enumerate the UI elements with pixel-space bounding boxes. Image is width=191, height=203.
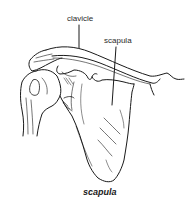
scapula-diagram: clavicle scapula scapula — [0, 0, 191, 203]
figure-caption: scapula — [83, 188, 117, 197]
scapula-line-drawing — [0, 0, 191, 203]
humerus-head — [21, 70, 61, 136]
coracoid-process — [57, 66, 97, 79]
clavicle-label: clavicle — [67, 15, 93, 23]
clavicle-bone — [46, 47, 184, 95]
scapula-leader-line — [112, 47, 116, 105]
scapula-label: scapula — [104, 37, 132, 45]
scapula-body — [60, 77, 134, 182]
